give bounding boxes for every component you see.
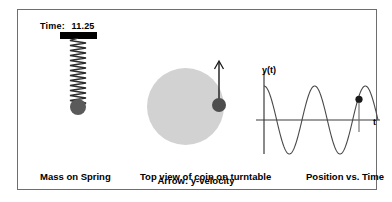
current-position-marker: [355, 96, 362, 103]
graph-x-axis-label: t: [373, 117, 376, 127]
simulation-frame: Time: 11.25: [17, 9, 377, 190]
turntable-panel: [143, 58, 238, 158]
coin-on-turntable: [212, 98, 226, 112]
spring-coil-icon: [66, 38, 90, 108]
graph-plot-area: [256, 62, 386, 158]
spring-mass: [70, 99, 86, 115]
position-vs-time-graph: y(t) t: [256, 62, 386, 158]
mass-on-spring-panel: [48, 28, 116, 128]
graph-y-axis-label: y(t): [262, 65, 276, 75]
caption-arrow-legend: Arrow: y-velocity: [0, 175, 392, 186]
simulation-canvas: Time: 11.25: [0, 0, 392, 202]
